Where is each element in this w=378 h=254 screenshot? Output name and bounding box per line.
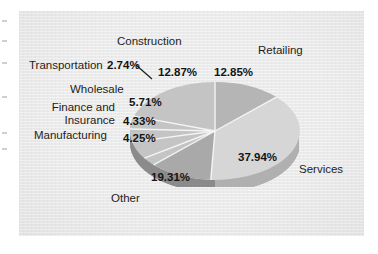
value-manufacturing: 4.25%	[123, 132, 156, 144]
label-services: Services	[299, 163, 343, 176]
value-services: 37.94%	[238, 151, 277, 163]
value-other: 19.31%	[151, 171, 190, 183]
pie-chart-panel: Construction Retailing Transportation Wh…	[19, 11, 364, 236]
label-construction: Construction	[117, 35, 182, 48]
label-retailing: Retailing	[258, 44, 303, 57]
label-manufacturing: Manufacturing	[34, 129, 107, 142]
value-retailing: 12.85%	[214, 66, 253, 78]
scan-edge-artifacts	[0, 0, 18, 254]
value-wholesale: 5.71%	[129, 96, 162, 108]
value-finance-and-insurance: 4.33%	[123, 115, 156, 127]
label-wholesale: Wholesale	[70, 83, 124, 96]
label-transportation: Transportation	[29, 59, 103, 72]
value-construction: 12.87%	[158, 66, 197, 78]
value-transportation: 2.74%	[107, 59, 140, 71]
label-finance-and-insurance: Finance and Insurance	[29, 101, 115, 126]
label-other: Other	[111, 192, 140, 205]
